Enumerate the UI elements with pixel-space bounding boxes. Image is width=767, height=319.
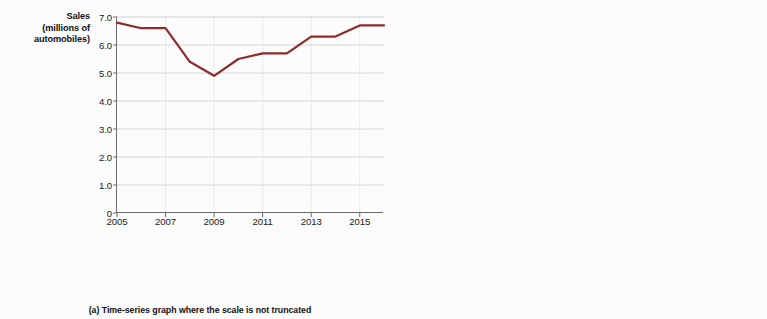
x-axis-tick-label: 2013: [301, 216, 322, 227]
y-axis-tick-label: 1.0: [99, 180, 112, 191]
figure-root: Sales (millions of automobiles) 01.02.03…: [0, 0, 767, 319]
line-chart-svg-a: [117, 17, 384, 213]
y-axis-tick-label: 5.0: [99, 68, 112, 79]
x-axis-tick-label: 2015: [349, 216, 370, 227]
x-axis-tick-label: 2007: [155, 216, 176, 227]
y-axis-title-line-3: automobiles): [4, 34, 90, 46]
y-axis-tick-label: 3.0: [99, 124, 112, 135]
data-series-line: [117, 23, 384, 76]
y-axis-tick-label: 6.0: [99, 40, 112, 51]
panel-a-caption: (a) Time-series graph where the scale is…: [0, 305, 400, 315]
grid-and-series-a: [117, 17, 383, 212]
x-axis-tick-label: 2011: [253, 216, 273, 227]
chart-panel-a: Sales (millions of automobiles) 01.02.03…: [0, 0, 400, 319]
y-axis-title-line-2: (millions of: [4, 23, 90, 35]
x-axis-tick-label: 2005: [107, 216, 128, 227]
plot-area-a: 01.02.03.04.05.06.07.0200520072009201120…: [116, 17, 383, 213]
y-axis-title-a: Sales (millions of automobiles): [4, 11, 90, 46]
y-axis-title-line-1: Sales: [4, 11, 90, 23]
y-axis-tick-label: 4.0: [99, 96, 112, 107]
y-axis-tick-label: 2.0: [99, 152, 112, 163]
y-axis-tick-label: 7.0: [99, 12, 112, 23]
chart-panel-b: Sales (millions of automobiles) 4.55.05.…: [400, 0, 767, 319]
x-axis-tick-label: 2009: [204, 216, 225, 227]
